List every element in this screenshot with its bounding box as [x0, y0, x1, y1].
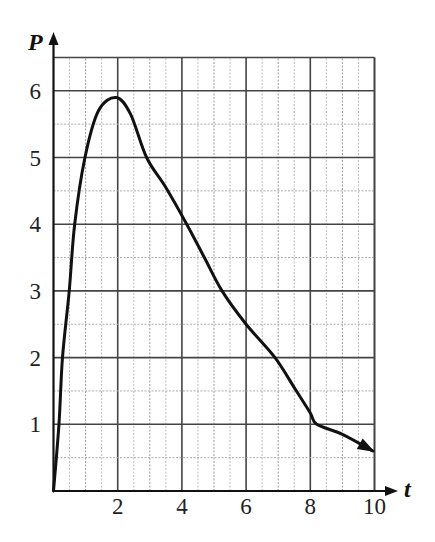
y-tick-label: 3 [30, 279, 42, 304]
y-tick-label: 5 [30, 146, 42, 171]
y-tick-label: 6 [30, 79, 42, 104]
x-axis-label: t [404, 476, 412, 502]
curve-arrow-icon [357, 439, 375, 452]
y-tick-label: 1 [30, 412, 42, 437]
x-tick-label: 4 [176, 494, 188, 519]
x-tick-label: 8 [305, 494, 317, 519]
chart: P t 246810123456 [0, 0, 435, 542]
tick-labels: 246810123456 [30, 79, 387, 519]
axes: P t [27, 29, 412, 502]
x-axis-arrow-icon [385, 486, 398, 496]
y-tick-label: 2 [30, 346, 42, 371]
x-tick-label: 6 [240, 494, 252, 519]
x-tick-label: 2 [112, 494, 124, 519]
y-axis-arrow-icon [49, 32, 59, 45]
y-axis-label: P [27, 29, 43, 55]
y-tick-label: 4 [30, 212, 42, 237]
x-tick-label: 10 [363, 494, 386, 519]
